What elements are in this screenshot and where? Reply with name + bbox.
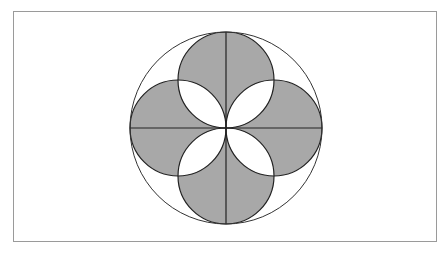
geometric-diagram [0, 0, 446, 254]
